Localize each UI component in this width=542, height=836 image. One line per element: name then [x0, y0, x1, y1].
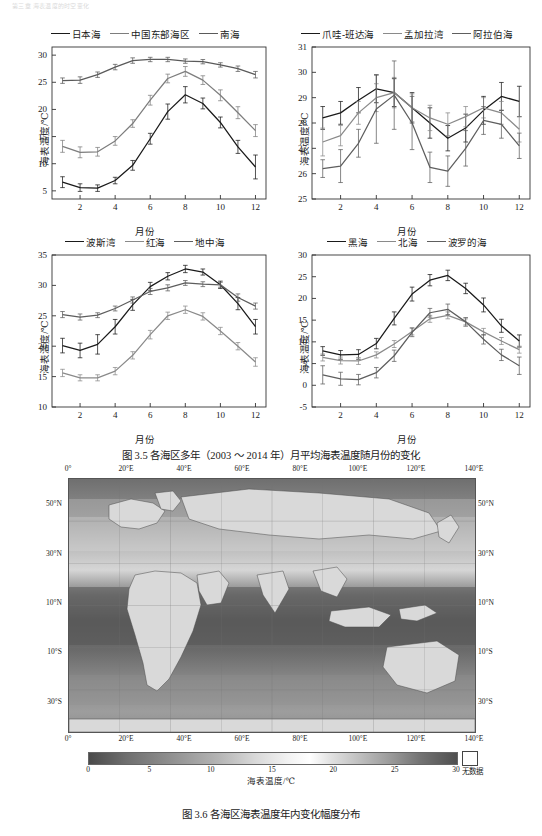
svg-text:2: 2: [338, 202, 343, 212]
legend-panel-b: 爪哇-班达海 孟加拉湾 阿拉伯海: [278, 26, 536, 41]
map-lon-tick: 40°E: [176, 734, 191, 743]
colorbar-tick: 15: [268, 765, 276, 774]
svg-text:6: 6: [148, 202, 153, 212]
svg-text:6: 6: [410, 202, 415, 212]
colorbar-title: 海表温度/℃: [0, 774, 542, 786]
map-lat-tick: 30°S: [478, 696, 493, 705]
svg-text:8: 8: [446, 202, 451, 212]
map-lon-tick: 80°E: [292, 734, 307, 743]
svg-text:15: 15: [38, 132, 48, 142]
svg-text:10: 10: [38, 159, 48, 169]
legend-label: 波斯湾: [86, 235, 115, 249]
legend-line-icon: [174, 241, 193, 242]
map-lat-tick: 30°N: [46, 548, 62, 557]
svg-text:26: 26: [298, 169, 308, 179]
legend-panel-a: 日本海 中国东部海区 南海: [18, 26, 272, 41]
legend-label: 日本海: [72, 27, 101, 41]
svg-text:20: 20: [38, 341, 48, 351]
svg-text:25: 25: [38, 311, 48, 321]
chart-svg-b: 2526272829303124681012: [278, 41, 536, 219]
svg-text:10: 10: [479, 410, 489, 420]
map-lat-tick: 30°N: [478, 548, 494, 557]
legend-panel-d: 黑海 北海 波罗的海: [278, 234, 536, 249]
colorbar-tick: 5: [147, 765, 151, 774]
colorbar-tick: 0: [86, 765, 90, 774]
svg-text:12: 12: [251, 410, 260, 420]
map-raster: [69, 479, 475, 732]
svg-text:30: 30: [298, 250, 308, 260]
map-lat-tick: 10°S: [478, 647, 493, 656]
svg-text:30: 30: [298, 67, 308, 77]
map-lon-tick: 140°E: [465, 734, 484, 743]
map-lat-tick: 10°N: [478, 597, 494, 606]
svg-text:10: 10: [38, 402, 48, 412]
legend-label: 孟加拉湾: [404, 27, 443, 41]
plot-area-c: 海表温度/℃ 10152025303524681012 月份: [18, 249, 272, 444]
map-lat-tick: 30°S: [47, 696, 62, 705]
legend-item: 北海: [377, 235, 418, 249]
map-lat-tick: 50°N: [478, 499, 494, 508]
figure-page: 第三章 海表温度的时空变化 日本海 中国东部海区 南海 海表温度/℃ 51015…: [0, 0, 542, 836]
map-lon-axis-bottom: 0°20°E40°E60°E80°E100°E120°E140°E: [68, 734, 474, 746]
svg-text:27: 27: [298, 143, 308, 153]
svg-text:25: 25: [298, 194, 308, 204]
map-lon-tick: 140°E: [465, 464, 484, 473]
legend-label: 南海: [220, 27, 240, 41]
map-lon-tick: 100°E: [349, 464, 368, 473]
svg-text:0: 0: [303, 380, 308, 390]
legend-item: 孟加拉湾: [383, 27, 443, 41]
legend-line-icon: [383, 33, 402, 34]
chart-panel-d: 黑海 北海 波罗的海 海表温度/℃ -505101520253024681012…: [278, 234, 536, 446]
legend-line-icon: [452, 33, 471, 34]
legend-item: 阿拉伯海: [452, 27, 512, 41]
legend-item: 波罗的海: [427, 235, 487, 249]
legend-label: 阿拉伯海: [473, 27, 512, 41]
figure-35-chart-grid: 日本海 中国东部海区 南海 海表温度/℃ 5101520253024681012…: [0, 26, 542, 446]
chart-svg-d: -505101520253024681012: [278, 249, 536, 427]
legend-label: 地中海: [195, 235, 224, 249]
map-lat-tick: 10°S: [47, 647, 62, 656]
legend-line-icon: [199, 33, 218, 34]
chart-panel-a: 日本海 中国东部海区 南海 海表温度/℃ 5101520253024681012…: [18, 26, 272, 238]
svg-text:8: 8: [183, 410, 188, 420]
map-lon-tick: 100°E: [349, 734, 368, 743]
map-lat-tick: 50°N: [46, 499, 62, 508]
legend-label: 北海: [398, 235, 418, 249]
figure-36-map-block: 0°20°E40°E60°E80°E100°E120°E140°E 50°N30…: [0, 462, 542, 772]
plot-area-d: 海表温度/℃ -505101520253024681012 月份: [278, 249, 536, 444]
map-lon-tick: 60°E: [234, 464, 249, 473]
map-lon-tick: 120°E: [407, 464, 426, 473]
running-header: 第三章 海表温度的时空变化: [12, 1, 212, 9]
legend-item: 地中海: [174, 235, 224, 249]
nodata-swatch: [462, 751, 478, 766]
legend-label: 中国东部海区: [131, 27, 190, 41]
svg-text:35: 35: [38, 250, 48, 260]
svg-text:25: 25: [298, 272, 308, 282]
svg-text:5: 5: [303, 359, 308, 369]
svg-text:28: 28: [298, 118, 308, 128]
legend-line-icon: [51, 33, 70, 34]
svg-text:12: 12: [515, 202, 524, 212]
legend-line-icon: [301, 33, 320, 34]
svg-text:31: 31: [298, 42, 307, 52]
legend-item: 黑海: [327, 235, 368, 249]
x-axis-label: 月份: [278, 432, 536, 446]
legend-item: 日本海: [51, 27, 101, 41]
svg-text:25: 25: [38, 77, 48, 87]
map-lon-tick: 0°: [65, 734, 72, 743]
svg-text:20: 20: [298, 293, 308, 303]
map-lon-tick: 20°E: [118, 464, 133, 473]
svg-text:10: 10: [298, 337, 308, 347]
legend-label: 黑海: [348, 235, 368, 249]
svg-text:8: 8: [183, 202, 188, 212]
legend-item: 南海: [199, 27, 240, 41]
svg-text:-5: -5: [300, 402, 308, 412]
map-lon-tick: 120°E: [407, 734, 426, 743]
legend-line-icon: [377, 241, 396, 242]
svg-text:6: 6: [410, 410, 415, 420]
legend-line-icon: [65, 241, 84, 242]
chart-panel-b: 爪哇-班达海 孟加拉湾 阿拉伯海 海表温度/℃ 2526272829303124…: [278, 26, 536, 238]
colorbar-tick: 25: [391, 765, 399, 774]
legend-line-icon: [125, 241, 144, 242]
map-lon-axis-top: 0°20°E40°E60°E80°E100°E120°E140°E: [68, 464, 474, 476]
